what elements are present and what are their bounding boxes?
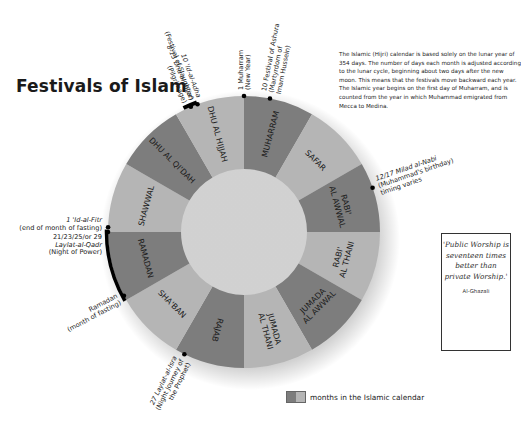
festival-marker: [182, 352, 187, 357]
festival-label: 21/23/25/or 29Laylat-al-Qadr(Night of Po…: [49, 233, 104, 256]
legend-swatch: [286, 391, 306, 403]
festival-marker: [370, 185, 375, 190]
quote-text: 'Public Worship is seventeen times bette…: [442, 240, 510, 282]
festival-marker: [106, 225, 111, 230]
festival-label: 1 'Id-al-Fitr(end of month of fasting): [19, 216, 103, 232]
quote-author: Al-Ghazali: [442, 288, 510, 294]
festival-label: 10 Festival of Ashura(Martyrdom ofImam H…: [260, 23, 296, 95]
festival-marker: [268, 96, 273, 101]
festival-label: 1 Muharram(New Year): [237, 50, 253, 90]
quote-box: 'Public Worship is seventeen times bette…: [441, 233, 511, 351]
festival-label: 12/17 Milad al-Nabi(Muhammad's birthday)…: [375, 149, 457, 197]
festival-label: Ramadan(month of fasting): [62, 292, 122, 334]
legend-label: months in the Islamic calendar: [310, 393, 424, 402]
intro-text: The Islamic (Hijri) calendar is based so…: [339, 50, 521, 110]
festival-label: 27 Laylat-al-Isra(Night Journey ofthe Pr…: [147, 354, 192, 415]
festival-marker: [189, 105, 194, 110]
festival-marker: [195, 102, 200, 107]
festival-marker: [106, 230, 111, 235]
legend-swatch-dark: [287, 392, 296, 402]
festival-marker: [242, 94, 247, 99]
legend: months in the Islamic calendar: [286, 391, 424, 403]
festival-marker: [122, 294, 127, 299]
legend-swatch-light: [296, 392, 305, 402]
